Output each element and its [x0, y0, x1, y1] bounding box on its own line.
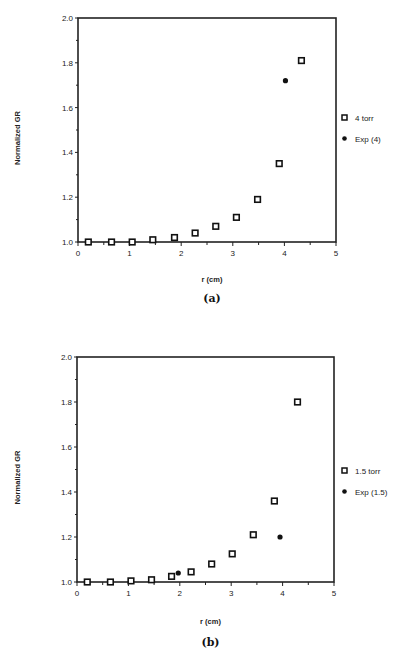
data-point-square [255, 197, 261, 203]
x-axis-label: r (cm) [202, 275, 223, 284]
plot-frame [77, 357, 334, 582]
panel-label: (b) [201, 636, 219, 649]
data-point-square [150, 237, 156, 243]
y-tick-label: 1.6 [62, 104, 74, 113]
legend-square-icon [342, 468, 347, 473]
legend-label: 1.5 torr [355, 467, 381, 476]
x-tick-label: 0 [75, 589, 80, 598]
legend-circle-icon [342, 489, 347, 494]
data-point-square [229, 551, 235, 557]
x-axis-label: r (cm) [200, 617, 221, 626]
data-point-square [108, 579, 114, 585]
data-point-square [86, 239, 92, 245]
x-tick-label: 2 [178, 589, 183, 598]
y-tick-label: 1.6 [61, 443, 73, 452]
y-tick-label: 1.0 [62, 238, 74, 247]
x-tick-label: 0 [76, 249, 81, 258]
data-point-square [234, 215, 240, 221]
x-tick-label: 4 [280, 589, 285, 598]
chart-panel-a: 1.01.21.41.61.82.0012345Normalized GRr (… [13, 14, 381, 305]
x-tick-label: 1 [126, 589, 131, 598]
y-tick-label: 1.4 [62, 148, 74, 157]
legend-label: Exp (1.5) [355, 488, 388, 497]
legend-circle-icon [342, 136, 347, 141]
legend-label: 4 torr [355, 114, 374, 123]
x-tick-label: 1 [127, 249, 132, 258]
x-tick-label: 3 [231, 249, 236, 258]
data-point-square [84, 579, 90, 585]
data-point-square [276, 161, 282, 167]
x-tick-label: 4 [282, 249, 287, 258]
legend-label: Exp (4) [355, 135, 381, 144]
data-point-square [172, 235, 178, 241]
data-point-square [251, 532, 257, 538]
plot-frame [78, 18, 336, 242]
x-tick-label: 5 [334, 249, 339, 258]
data-point-square [128, 578, 134, 584]
y-tick-label: 2.0 [62, 14, 74, 23]
data-point-circle [176, 570, 181, 575]
data-point-square [272, 498, 278, 504]
legend-square-icon [342, 115, 347, 120]
y-tick-label: 1.0 [61, 578, 73, 587]
y-axis-label: Normalized GR [13, 450, 22, 504]
figure: 1.01.21.41.61.82.0012345Normalized GRr (… [0, 0, 419, 651]
data-point-square [209, 561, 215, 567]
data-point-square [149, 577, 155, 583]
data-point-square [192, 230, 198, 236]
data-point-circle [277, 534, 282, 539]
y-tick-label: 1.4 [61, 488, 73, 497]
data-point-square [213, 224, 219, 230]
data-point-square [129, 239, 135, 245]
chart-panel-b: 1.01.21.41.61.82.0012345Normalized GRr (… [13, 353, 388, 649]
data-point-circle [283, 78, 288, 83]
y-axis-label: Normalized GR [13, 111, 22, 165]
data-point-square [188, 569, 194, 575]
x-tick-label: 2 [179, 249, 184, 258]
y-tick-label: 1.2 [62, 193, 74, 202]
y-tick-label: 1.8 [62, 59, 74, 68]
y-tick-label: 1.2 [61, 533, 73, 542]
data-point-square [295, 399, 301, 405]
data-point-square [299, 58, 305, 64]
data-point-square [169, 574, 175, 580]
y-tick-label: 2.0 [61, 353, 73, 362]
panel-label: (a) [203, 292, 221, 305]
x-tick-label: 5 [332, 589, 337, 598]
x-tick-label: 3 [229, 589, 234, 598]
data-point-square [109, 239, 115, 245]
y-tick-label: 1.8 [61, 398, 73, 407]
